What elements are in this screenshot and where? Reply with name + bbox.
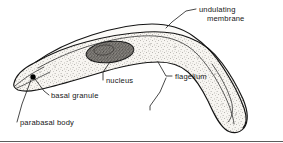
label-undulating-membrane-line2: membrane (207, 14, 245, 23)
protozoan-diagram-svg: undulating membrane nucleus flagellum ba… (0, 0, 283, 143)
label-undulating-membrane-line1: undulating (199, 5, 236, 14)
label-basal-granule: basal granule (51, 91, 99, 100)
label-flagellum: flagellum (175, 72, 207, 81)
leader-flagellum-lower (150, 78, 166, 110)
label-parabasal-body: parabasal body (20, 118, 74, 127)
leader-flagellum-upper (158, 62, 172, 76)
label-nucleus: nucleus (106, 76, 133, 85)
figure-container: undulating membrane nucleus flagellum ba… (0, 0, 283, 143)
leader-undulating-membrane (166, 9, 196, 28)
